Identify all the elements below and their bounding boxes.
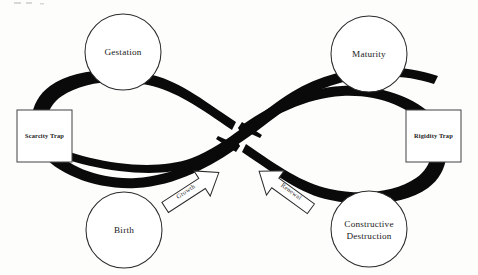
node-gestation[interactable]: Gestation xyxy=(85,14,161,90)
birth-label: Birth xyxy=(114,225,134,235)
constructive-destruction-label-line1: Constructive xyxy=(344,219,393,229)
node-constructive-destruction[interactable]: Constructive Destruction xyxy=(331,191,407,267)
node-birth[interactable]: Birth xyxy=(86,192,162,268)
constructive-destruction-label-line2: Destruction xyxy=(346,231,391,241)
infinity-cycle-diagram: Scarcity Trap Rigidity Trap Growth Renew… xyxy=(0,0,478,275)
maturity-label: Maturity xyxy=(352,49,386,59)
phase-nodes: Gestation Maturity Birth Constructive De… xyxy=(85,14,407,268)
scarcity-trap-box[interactable]: Scarcity Trap xyxy=(17,110,72,162)
node-maturity[interactable]: Maturity xyxy=(331,16,407,92)
diagram-canvas: Scarcity Trap Rigidity Trap Growth Renew… xyxy=(0,0,478,275)
rigidity-trap-label: Rigidity Trap xyxy=(414,132,453,139)
rigidity-trap-box[interactable]: Rigidity Trap xyxy=(406,110,461,162)
scarcity-trap-label: Scarcity Trap xyxy=(25,132,64,139)
gestation-label: Gestation xyxy=(104,47,141,57)
scan-artifacts xyxy=(14,2,44,5)
